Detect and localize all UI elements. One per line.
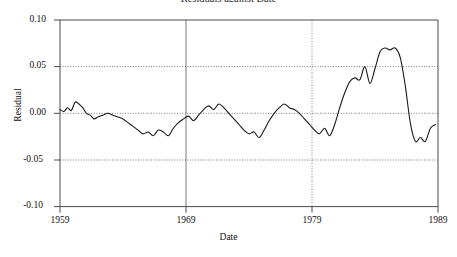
ytick-label-3: -0.05 bbox=[3, 154, 43, 164]
xtick-label-0: 1959 bbox=[38, 215, 82, 225]
xtick-label-2: 1979 bbox=[290, 215, 334, 225]
y-axis-label: Residual bbox=[13, 70, 23, 140]
residual-plot-figure: Residuals against Date 0.1 bbox=[0, 0, 457, 257]
xtick-label-1: 1969 bbox=[164, 215, 208, 225]
ytick-label-0: 0.10 bbox=[6, 14, 46, 24]
residual-series-line bbox=[60, 48, 435, 142]
x-axis-label: Date bbox=[0, 232, 457, 242]
xtick-label-3: 1989 bbox=[416, 215, 457, 225]
ytick-label-4: -0.10 bbox=[3, 200, 43, 210]
plot-frame bbox=[60, 20, 438, 207]
grid-lines bbox=[60, 20, 438, 207]
ytick-label-2: 0.00 bbox=[6, 107, 46, 117]
ytick-label-1: 0.05 bbox=[6, 60, 46, 70]
axis-ticks bbox=[54, 20, 438, 213]
